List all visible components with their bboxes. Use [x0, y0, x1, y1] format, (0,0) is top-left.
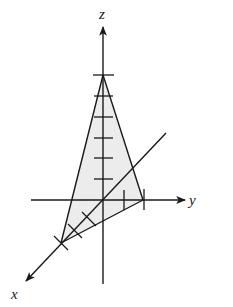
tetrahedron-diagram: z y x — [0, 0, 233, 307]
z-axis-label: z — [98, 6, 105, 22]
y-axis-label: y — [187, 192, 196, 208]
x-axis-label: x — [10, 286, 18, 302]
shaded-face — [61, 75, 143, 243]
